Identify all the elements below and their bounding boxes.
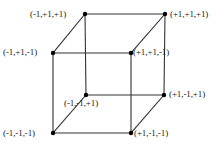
vertex-label-back-top-right: (+1,+1,+1) xyxy=(170,9,208,19)
cube-vertex-group xyxy=(51,12,167,135)
cube-diagram: (-1,+1,+1) (+1,+1,+1) (-1,+1,-1) (+1,+1,… xyxy=(0,0,219,149)
vertex-label-back-bottom-right: (+1,-1,+1) xyxy=(169,89,205,99)
vertex-label-front-top-left: (-1,+1,-1) xyxy=(3,47,37,57)
cube-vertex-back-top-right xyxy=(163,12,167,16)
vertex-label-back-bottom-left: (-1,-1,+1) xyxy=(64,98,98,108)
cube-edge-back-top-left-to-front-top-left xyxy=(53,14,85,53)
cube-vertex-front-bottom-right xyxy=(129,131,133,135)
cube-vertex-back-top-left xyxy=(83,12,87,16)
cube-edge-group xyxy=(53,14,165,133)
cube-vertex-back-bottom-right xyxy=(162,93,166,97)
cube-edge-back-top-left-to-back-bottom-left xyxy=(85,14,86,95)
cube-wireframe-graphic xyxy=(0,0,219,149)
vertex-label-front-bottom-left: (-1,-1,-1) xyxy=(3,128,35,138)
vertex-label-front-bottom-right: (+1,-1,-1) xyxy=(134,128,168,138)
cube-vertex-front-bottom-left xyxy=(51,131,55,135)
cube-vertex-back-bottom-left xyxy=(84,93,88,97)
vertex-label-back-top-left: (-1,+1,+1) xyxy=(30,9,66,19)
cube-vertex-front-top-left xyxy=(51,51,55,55)
vertex-label-front-top-right: (+1,+1,-1) xyxy=(133,47,169,57)
